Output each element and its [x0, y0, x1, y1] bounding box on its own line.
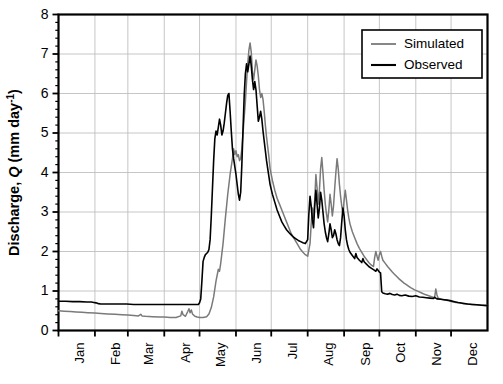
y-tick-label: 8 [41, 6, 49, 22]
x-tick-label: Aug [321, 343, 336, 366]
y-axis-title: Discharge, Q (mm day-1) [5, 89, 23, 256]
y-tick-label: 3 [41, 203, 49, 219]
x-tick-label: Mar [141, 342, 156, 365]
y-axis-title-text: Discharge, Q (mm day-1) [5, 89, 23, 256]
x-tick-label: Apr [178, 342, 193, 363]
x-tick-label: Jan [72, 343, 87, 364]
y-tick-label: 5 [41, 124, 49, 140]
y-axis-tick-labels: 012345678 [41, 6, 49, 338]
chart-figure: 012345678 JanFebMarAprMayJunJulAugSepOct… [0, 0, 503, 384]
x-tick-label: Jun [249, 343, 264, 364]
legend-label-observed: Observed [404, 57, 463, 72]
x-tick-label: Oct [393, 342, 408, 363]
x-tick-label: Sep [358, 343, 373, 366]
legend-label-simulated: Simulated [404, 36, 464, 51]
chart-legend[interactable]: SimulatedObserved [362, 30, 482, 78]
y-tick-label: 2 [41, 243, 49, 259]
x-tick-label: May [213, 342, 228, 367]
x-tick-label: Nov [429, 342, 444, 366]
y-tick-label: 7 [41, 45, 49, 61]
x-tick-label: Dec [465, 342, 480, 366]
discharge-hydrograph-chart: 012345678 JanFebMarAprMayJunJulAugSepOct… [0, 0, 503, 384]
y-tick-label: 1 [41, 282, 49, 298]
y-tick-label: 6 [41, 85, 49, 101]
y-tick-label: 0 [41, 322, 49, 338]
y-tick-label: 4 [41, 164, 49, 180]
x-tick-label: Jul [285, 342, 300, 359]
x-tick-label: Feb [108, 343, 123, 365]
